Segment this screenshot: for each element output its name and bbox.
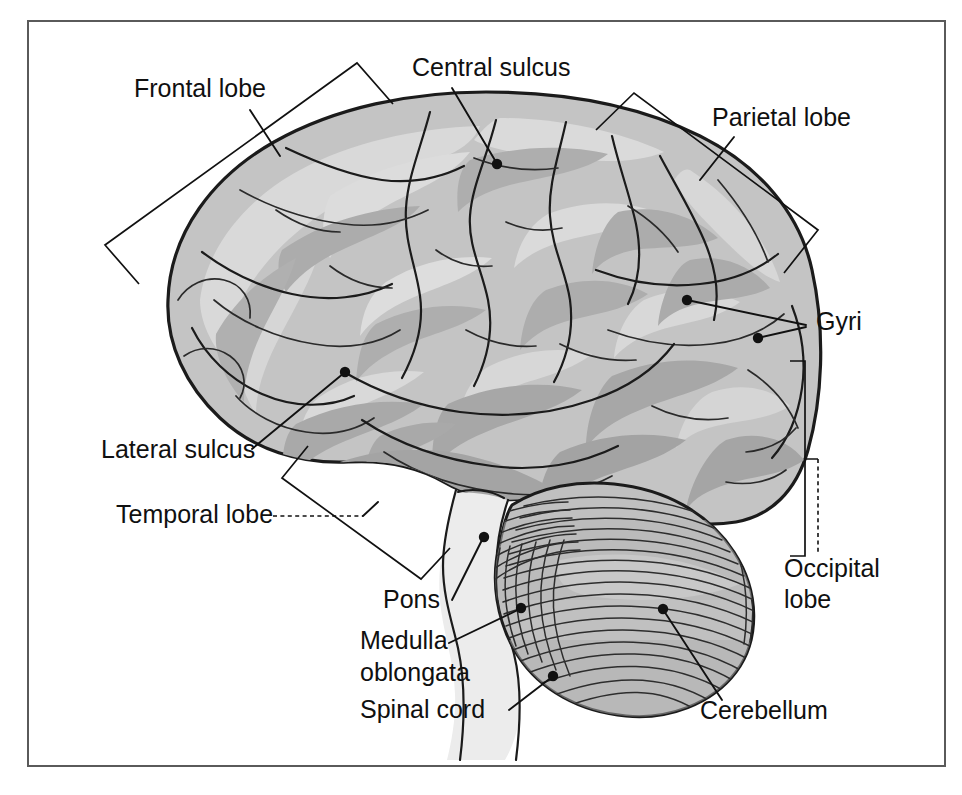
spinal-cord-dot [548, 671, 558, 681]
label-frontal-lobe: Frontal lobe [134, 74, 280, 156]
spinal-cord-label: Spinal cord [360, 695, 485, 723]
lateral-sulcus-dot [340, 367, 350, 377]
medulla-oblongata-label-line1: Medulla [360, 626, 448, 654]
medulla-oblongata-dot [516, 603, 526, 613]
label-temporal-lobe: Temporal lobe [116, 500, 378, 528]
label-occipital-lobe: Occipital lobe [784, 459, 880, 613]
medulla-oblongata-label-line2: oblongata [360, 658, 470, 686]
central-sulcus-dot [492, 159, 502, 169]
lateral-sulcus-label: Lateral sulcus [101, 435, 255, 463]
pons-dot [479, 532, 489, 542]
frontal-lobe-label: Frontal lobe [134, 74, 266, 102]
temporal-lobe-leader-tip [363, 502, 378, 516]
brain-diagram-svg: Frontal lobe Central sulcus Parietal lob… [0, 0, 962, 795]
temporal-lobe-label: Temporal lobe [116, 500, 273, 528]
gyri-dot-lower [753, 333, 763, 343]
occipital-lobe-label-line2: lobe [784, 585, 831, 613]
gyri-dot-upper [682, 295, 692, 305]
gyri-label: Gyri [816, 307, 862, 335]
cerebellum-dot [658, 604, 668, 614]
occipital-lobe-label-line1: Occipital [784, 554, 880, 582]
pons-label: Pons [383, 585, 440, 613]
cerebellum-label: Cerebellum [700, 696, 828, 724]
parietal-lobe-label: Parietal lobe [712, 103, 851, 131]
central-sulcus-label: Central sulcus [412, 53, 570, 81]
brain-diagram-figure: Frontal lobe Central sulcus Parietal lob… [0, 0, 962, 795]
